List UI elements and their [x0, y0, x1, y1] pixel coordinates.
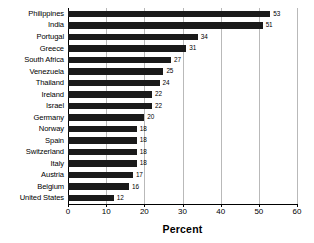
category-label: Ireland [41, 91, 64, 99]
bar-value-label: 18 [140, 160, 147, 166]
x-tick-label: 10 [102, 208, 111, 216]
bar-row: Venezuela25 [68, 68, 297, 75]
bar [68, 22, 263, 29]
x-axis-title: Percent [68, 224, 297, 235]
category-label: Austria [41, 171, 64, 179]
bar [68, 149, 137, 156]
bar-row: Belgium16 [68, 183, 297, 190]
bar-row: Philippines53 [68, 11, 297, 18]
bar [68, 57, 171, 64]
bar-row: Ireland22 [68, 91, 297, 98]
bar-row: Switzerland18 [68, 149, 297, 156]
bar-value-label: 24 [163, 80, 170, 86]
bar [68, 172, 133, 179]
bar-value-label: 31 [189, 45, 196, 51]
category-label: Israel [46, 102, 64, 110]
bar-chart: Philippines53India51Portugal34Greece31So… [0, 0, 314, 243]
bar [68, 195, 114, 202]
plot-area: Philippines53India51Portugal34Greece31So… [68, 8, 297, 204]
bar-row: India51 [68, 22, 297, 29]
category-label: Venezuela [29, 68, 64, 76]
bar [68, 114, 144, 121]
bar-row: Greece31 [68, 45, 297, 52]
category-label: South Africa [24, 56, 64, 64]
bar-row: Germany20 [68, 114, 297, 121]
bar-row: Austria17 [68, 172, 297, 179]
bar-value-label: 22 [155, 103, 162, 109]
bar-row: Thailand24 [68, 80, 297, 87]
gridline-60 [297, 8, 298, 204]
category-label: United States [20, 194, 64, 202]
bar-value-label: 22 [155, 91, 162, 97]
x-tick-label: 30 [178, 208, 187, 216]
bar [68, 160, 137, 167]
bar [68, 34, 198, 41]
category-label: Greece [40, 45, 64, 53]
x-tick-label: 60 [293, 208, 302, 216]
category-label: Portugal [37, 33, 64, 41]
bar-value-label: 25 [166, 68, 173, 74]
x-tick-label: 40 [216, 208, 225, 216]
bar-value-label: 53 [273, 11, 280, 17]
bar-value-label: 18 [140, 149, 147, 155]
bar-value-label: 27 [174, 57, 181, 63]
bar-row: South Africa27 [68, 57, 297, 64]
bar [68, 68, 163, 75]
category-label: Switzerland [26, 148, 64, 156]
category-label: Germany [33, 114, 64, 122]
category-label: Philippines [28, 10, 64, 18]
bar [68, 183, 129, 190]
bar-value-label: 34 [201, 34, 208, 40]
bar [68, 80, 160, 87]
bar-value-label: 17 [136, 172, 143, 178]
category-label: India [48, 21, 64, 29]
bar-row: Spain18 [68, 137, 297, 144]
bar [68, 91, 152, 98]
bar-value-label: 18 [140, 137, 147, 143]
bar [68, 103, 152, 110]
bar [68, 126, 137, 133]
x-tick-label: 20 [140, 208, 149, 216]
bar-row: Israel22 [68, 103, 297, 110]
category-label: Belgium [37, 183, 64, 191]
category-label: Italy [51, 160, 64, 168]
category-label: Thailand [36, 79, 64, 87]
bar [68, 11, 270, 18]
bar-value-label: 20 [147, 114, 154, 120]
bar-row: Portugal34 [68, 34, 297, 41]
bar-value-label: 16 [132, 184, 139, 190]
bar [68, 45, 186, 52]
bar-series: Philippines53India51Portugal34Greece31So… [68, 8, 297, 204]
bar-value-label: 51 [266, 22, 273, 28]
bar-row: Norway18 [68, 126, 297, 133]
bar-value-label: 18 [140, 126, 147, 132]
category-label: Spain [45, 137, 64, 145]
category-label: Norway [39, 125, 64, 133]
bar-row: United States12 [68, 195, 297, 202]
bar [68, 137, 137, 144]
x-tick-label: 0 [66, 208, 70, 216]
bar-value-label: 12 [117, 195, 124, 201]
x-tick-label: 50 [254, 208, 263, 216]
x-axis-ticks: 0102030405060 [68, 204, 297, 218]
bar-row: Italy18 [68, 160, 297, 167]
